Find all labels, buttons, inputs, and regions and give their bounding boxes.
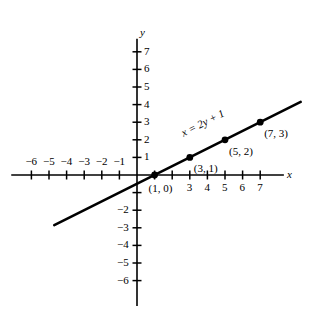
x-tick-label: 3 bbox=[187, 182, 193, 193]
x-tick-label: −6 bbox=[25, 156, 37, 167]
point-coordinate-label: (5, 2) bbox=[229, 146, 253, 157]
y-tick-label: −4 bbox=[117, 239, 129, 250]
x-tick-label: 4 bbox=[204, 182, 210, 193]
plotted-line-group bbox=[54, 102, 300, 225]
y-tick-label: 5 bbox=[144, 81, 150, 92]
x-tick-label: 6 bbox=[240, 182, 246, 193]
point-coordinate-label: (1, 0) bbox=[149, 183, 173, 194]
y-tick-label: −6 bbox=[117, 275, 129, 286]
x-tick-label: −1 bbox=[113, 156, 125, 167]
y-tick-label: 6 bbox=[144, 63, 150, 74]
y-tick-label: 4 bbox=[144, 99, 150, 110]
point-coordinate-label: (7, 3) bbox=[264, 128, 288, 139]
y-tick-label: 7 bbox=[144, 46, 150, 57]
coordinate-plane-figure: y x −6−5−4−3−2−1345677654321−2−3−4−5−6 (… bbox=[0, 0, 314, 311]
x-axis-label: x bbox=[287, 169, 292, 180]
y-tick-label: −5 bbox=[117, 257, 129, 268]
x-tick-label: 5 bbox=[222, 182, 228, 193]
y-tick-label: 2 bbox=[144, 134, 150, 145]
plotted-line bbox=[54, 102, 300, 225]
data-point bbox=[222, 136, 229, 143]
x-tick-label: −3 bbox=[78, 156, 90, 167]
y-tick-label: −2 bbox=[117, 204, 129, 215]
y-tick-label: −3 bbox=[117, 222, 129, 233]
x-tick-label: 7 bbox=[257, 182, 263, 193]
x-tick-label: −4 bbox=[61, 156, 73, 167]
x-tick-label: −5 bbox=[43, 156, 55, 167]
x-tick-label: −2 bbox=[96, 156, 108, 167]
y-tick-label: 3 bbox=[144, 116, 150, 127]
data-point bbox=[257, 119, 264, 126]
y-axis-label: y bbox=[140, 27, 145, 38]
data-point bbox=[186, 154, 193, 161]
point-coordinate-label: (3, 1) bbox=[194, 163, 218, 174]
data-point bbox=[151, 172, 158, 179]
y-tick-label: 1 bbox=[144, 151, 150, 162]
